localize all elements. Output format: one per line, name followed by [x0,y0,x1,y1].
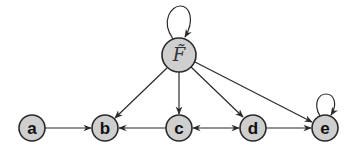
node-e: e [312,115,338,141]
node-a-label: a [27,119,37,138]
node-a: a [19,115,45,141]
node-d: d [240,115,266,141]
edge-F-F-self-loop [167,6,190,39]
edge-e-e-self-loop [317,94,335,116]
edge-F-to-b [115,68,167,118]
node-e-label: e [320,119,329,138]
graph-diagram: F̃ a b c d e [0,0,357,151]
node-c-label: c [174,119,183,138]
node-b-label: b [100,119,110,138]
node-d-label: d [248,119,258,138]
edge-F-to-e [195,62,312,122]
node-c: c [166,115,192,141]
node-F-label: F̃ [172,44,187,65]
node-F: F̃ [162,38,196,72]
node-b: b [92,115,118,141]
edge-F-to-d [191,67,243,117]
